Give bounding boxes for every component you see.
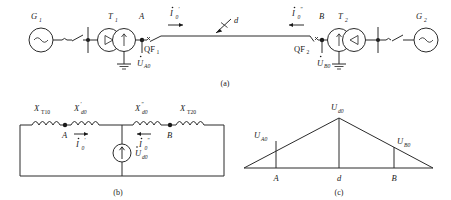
switch-g1[interactable] [72,35,83,41]
label-ua0-c-text: U [254,130,261,140]
node-b-dot-b [168,123,172,127]
voltage-ua0-label: U [137,58,144,68]
reactance-xt10-label: X [33,103,40,113]
voltage-ub0-subscript: B0 [324,63,330,69]
fault-label: d [234,15,239,25]
node-a-label-b: A [61,130,68,140]
reactance-xt20-subscript: T20 [187,109,196,115]
node-b-label-b: B [167,130,172,140]
breaker-qf1[interactable] [150,36,161,42]
current-i0-prime-right-subscript: 0 [298,14,301,20]
current-i0-prime-left-prime: ′ [179,6,180,12]
label-ud0-c-subscript: d0 [338,108,344,114]
breaker-cross-qf2 [315,37,318,40]
i0-prime-left-phasor-dot [172,7,174,9]
voltage-ub0-label: U [317,58,324,68]
caption-a: (a) [221,79,230,88]
current-i0-dprime-b-label: I [138,139,143,149]
label-ud0-c: U d0 [331,102,344,114]
breaker-qf1-label: QF [144,44,155,54]
voltage-source-ud0-label: U [135,148,142,158]
current-i0-prime-b-mark: ′ [85,137,86,143]
axis-label-a: A [272,173,279,183]
generator-g2-subscript: 2 [424,17,427,23]
current-i0-prime-left: I 0 ′ [168,6,183,27]
breaker-qf2-subscript: 2 [307,49,310,55]
label-ub0-c-text: U [397,136,404,146]
reactance-xd0-dprime-mark: ″ [142,101,145,107]
axis-label-b: B [391,173,396,183]
panel-b-equivalent-circuit: X T10 A X d0 ′ I 0 ′ U d0 X d0 ″ [8,96,236,200]
reactance-xd0-prime-label: X [73,103,80,113]
reactance-xt10: X T10 [32,103,60,125]
label-ua0-c-subscript: A0 [260,136,267,142]
current-i0-dprime-b-mark: ″ [148,137,151,143]
caption-c: (c) [335,188,344,197]
breaker-qf1-subscript: 1 [157,49,160,55]
generator-g1-subscript: 1 [39,17,42,23]
reactance-xt10-subscript: T10 [41,109,50,115]
reactance-xd0-prime-subscript: d0 [81,109,87,115]
current-i0-prime-b: I 0 ′ [74,132,88,151]
current-i0-prime-right-prime: ″ [301,6,304,12]
arrow-g1 [62,38,67,40]
current-i0-prime-b-subscript: 0 [82,145,85,151]
generator-g1-label: G [31,11,37,21]
reactance-xt20-label: X [179,103,186,113]
breaker-qf2-label: QF [294,44,305,54]
breaker-qf2[interactable] [310,36,314,42]
switch-g2[interactable] [392,35,403,41]
label-ud0-c-text: U [331,102,338,112]
i0-prime-b-phasor-dot [78,138,80,140]
arrow-g2 [386,38,391,40]
transformer-t1-label: T [108,11,114,21]
current-i0-prime-right-label: I [291,8,296,18]
node-b-label: B [319,11,324,21]
reactance-xd0-dprime: X d0 ″ [133,101,161,125]
voltage-ua0-subscript: A0 [143,63,150,69]
transformer-t2-label: T [338,11,344,21]
transformer-t1: T 1 [98,11,136,69]
label-ub0-c-subscript: B0 [404,142,410,148]
label-ub0-c: U B0 [397,136,410,148]
node-a-dot-b [63,123,67,127]
ground-symbol-t2 [332,64,346,69]
generator-g2: G 2 [414,11,438,52]
current-i0-dprime-b: I 0 ″ [137,132,151,151]
axis-label-d: d [337,173,342,183]
panel-c-voltage-profile: U A0 U d0 U B0 A d B (c) [228,96,451,200]
transformer-t1-subscript: 1 [115,17,118,23]
current-i0-prime-b-label: I [75,139,80,149]
voltage-source-ud0-subscript: d0 [142,154,148,160]
i0-prime-right-phasor-dot [294,7,296,9]
current-i0-prime-left-subscript: 0 [176,14,179,20]
ground-symbol-t1 [117,64,131,69]
reactance-xd0-dprime-label: X [134,103,141,113]
reactance-xd0-dprime-subscript: d0 [142,109,148,115]
transformer-t2-subscript: 2 [345,17,348,23]
generator-g1: G 1 [29,11,53,52]
reactance-xd0-prime: X d0 ′ [71,101,99,125]
generator-g2-label: G [416,11,422,21]
reactance-xd0-prime-mark: ′ [81,101,82,107]
reactance-xt20: X T20 [176,103,204,125]
label-ua0-c: U A0 [254,130,267,142]
voltage-source-ud0: U d0 [113,144,148,162]
fault-point-d: d [216,15,239,33]
i0-dprime-b-phasor-dot [141,138,143,140]
ud0-phasor-dot [136,146,138,148]
current-i0-prime-left-label: I [169,8,174,18]
current-i0-prime-right: I 0 ″ [289,6,304,27]
current-i0-dprime-b-subscript: 0 [145,145,148,151]
node-a-label: A [138,11,145,21]
panel-a-single-line-diagram: G 1 T 1 A QF 1 U A0 [0,0,451,95]
breaker-cross-qf1 [147,37,150,40]
caption-b: (b) [113,188,123,197]
transformer-t2: T 2 [328,11,366,69]
